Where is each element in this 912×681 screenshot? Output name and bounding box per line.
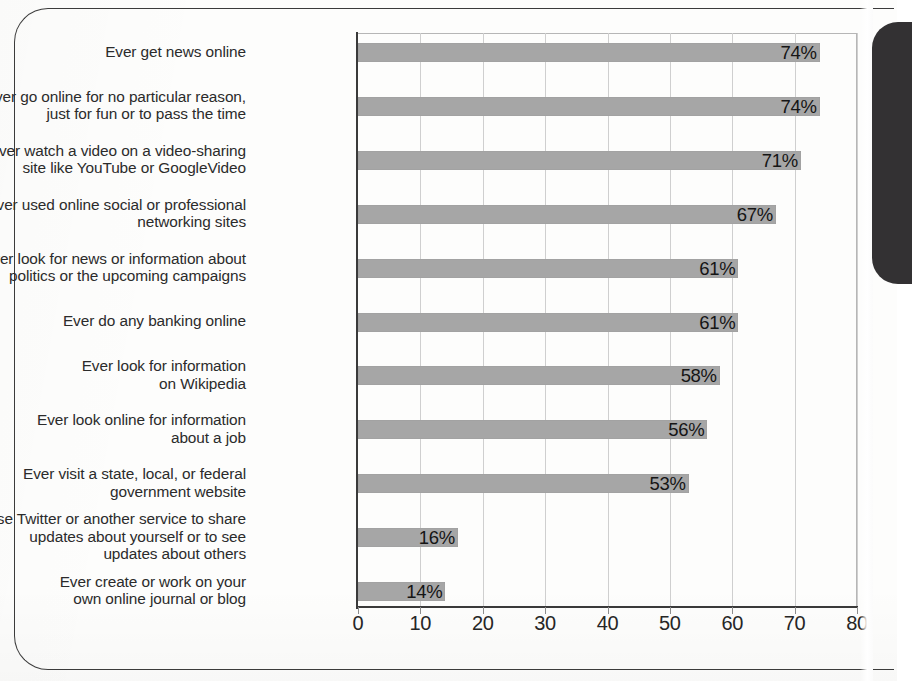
- bar-category-label: Ever get news online: [0, 43, 246, 61]
- bar: [358, 366, 720, 385]
- x-tick-label: 0: [328, 612, 388, 634]
- bar-category-label-line: about a job: [0, 429, 246, 447]
- bar-value-label: 61%: [686, 313, 738, 332]
- bar-value-label: 14%: [393, 582, 445, 601]
- bar-category-label-line: Ever create or work on your: [0, 573, 246, 591]
- bar-category-label: Ever create or work on yourown online jo…: [0, 573, 246, 608]
- bar-category-label-line: Ever watch a video on a video-sharing: [0, 142, 246, 160]
- x-tick-label: 50: [640, 612, 700, 634]
- bar-value-label: 74%: [768, 97, 820, 116]
- book-binding-shadow: [872, 22, 912, 284]
- bar-value-label: 74%: [768, 43, 820, 62]
- bar-value-label: 16%: [406, 528, 458, 547]
- x-tick-label: 60: [702, 612, 762, 634]
- bar-category-label: Ever watch a video on a video-sharingsit…: [0, 142, 246, 177]
- bar: [358, 151, 801, 170]
- bar: [358, 313, 738, 332]
- x-tick-label: 40: [578, 612, 638, 634]
- bar-category-label-line: government website: [0, 483, 246, 501]
- bar-category-label-line: Ever get news online: [0, 43, 246, 61]
- bar-value-label: 58%: [668, 366, 720, 385]
- bar-category-label-line: Ever go online for no particular reason,: [0, 88, 246, 106]
- bar-category-label-line: on Wikipedia: [0, 375, 246, 393]
- bar: [358, 259, 738, 278]
- bar-category-label-line: just for fun or to pass the time: [0, 105, 246, 123]
- gridline-80: [857, 33, 858, 607]
- x-tick-label: 80: [827, 612, 887, 634]
- bar-category-label: Ever visit a state, local, or federalgov…: [0, 465, 246, 500]
- bar-category-label-line: Ever look for news or information about: [0, 250, 246, 268]
- x-tick-label: 10: [390, 612, 450, 634]
- bar-value-label: 71%: [749, 151, 801, 170]
- bar-category-label-line: Ever used online social or professional: [0, 196, 246, 214]
- bar-category-label-line: updates about yourself or to see: [0, 528, 246, 546]
- bar-category-label: Ever look for informationon Wikipedia: [0, 357, 246, 392]
- bar-category-label: Ever look online for informationabout a …: [0, 411, 246, 446]
- bar-category-label-line: Ever visit a state, local, or federal: [0, 465, 246, 483]
- bar-category-label-line: Ever do any banking online: [0, 312, 246, 330]
- bar-category-label: Use Twitter or another service to shareu…: [0, 510, 246, 563]
- bar-value-label: 61%: [686, 259, 738, 278]
- bar: [358, 97, 820, 116]
- bar-category-label-line: site like YouTube or GoogleVideo: [0, 159, 246, 177]
- bar-category-label-line: Use Twitter or another service to share: [0, 510, 246, 528]
- bar-value-label: 53%: [637, 474, 689, 493]
- bar: [358, 205, 776, 224]
- bar: [358, 43, 820, 62]
- bar-category-label-line: updates about others: [0, 545, 246, 563]
- bar-category-label-line: Ever look for information: [0, 357, 246, 375]
- bar-category-label-line: Ever look online for information: [0, 411, 246, 429]
- x-tick-label: 30: [515, 612, 575, 634]
- x-tick-label: 20: [453, 612, 513, 634]
- gridline-70: [795, 33, 796, 607]
- bar-category-label-line: politics or the upcoming campaigns: [0, 267, 246, 285]
- bar-category-label: Ever used online social or professionaln…: [0, 196, 246, 231]
- bar-category-label-line: networking sites: [0, 213, 246, 231]
- bar-category-label: Ever do any banking online: [0, 312, 246, 330]
- bar-value-label: 56%: [655, 420, 707, 439]
- x-tick-label: 70: [765, 612, 825, 634]
- bar-category-label: Ever go online for no particular reason,…: [0, 88, 246, 123]
- bar-category-label-line: own online journal or blog: [0, 590, 246, 608]
- bar-category-label: Ever look for news or information aboutp…: [0, 250, 246, 285]
- bar-value-label: 67%: [724, 205, 776, 224]
